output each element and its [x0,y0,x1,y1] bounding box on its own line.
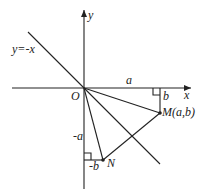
point-N-label: N [106,156,116,170]
point-N [101,158,105,162]
point-M-label: M(a,b) [161,105,195,119]
y-axis-label: y [87,8,94,22]
line-label: y=-x [11,42,35,56]
line-y-equals-neg-x [28,32,160,164]
origin-label: O [71,89,80,103]
segment-OM [84,88,160,113]
x-axis-label: x [183,88,190,102]
label-neg-a: -a [73,129,83,143]
label-a: a [126,73,132,87]
coordinate-diagram: y x O y=-x a b M(a,b) -a -b N [0,0,200,194]
segment-ON [84,88,103,160]
label-b: b [163,89,169,103]
segment-MN [103,113,160,160]
label-neg-b: -b [89,159,99,173]
right-angle-marker-M [153,88,160,95]
